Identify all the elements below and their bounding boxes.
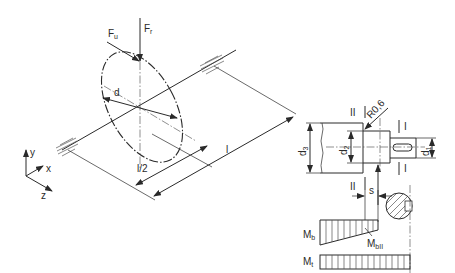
section-ii-bottom-label: II — [350, 181, 356, 192]
coordinate-axes: y x z — [26, 147, 52, 201]
section-ii-top-label: II — [350, 107, 356, 118]
axis-y-label: y — [30, 147, 35, 158]
axis-x-label: x — [46, 163, 51, 174]
torsion-moment-diagram: Mt — [303, 255, 410, 269]
break-line — [321, 123, 323, 173]
shaft-section-d3 — [320, 123, 363, 173]
radius-label: R0,6 — [364, 97, 387, 120]
cross-section-icon — [380, 190, 418, 225]
extension-line-left — [68, 150, 155, 200]
extension-line-right — [214, 66, 296, 114]
diagram-canvas: d Fr Fu l l/2 y x z — [0, 0, 455, 273]
right-bearing-icon — [200, 55, 224, 74]
s-label: s — [369, 185, 374, 196]
length-l-dimension — [154, 117, 293, 196]
mb-label: Mb — [303, 229, 315, 241]
diameter-label: d — [114, 87, 120, 98]
d3-label: d3 — [297, 146, 309, 156]
half-length-label: l/2 — [137, 163, 148, 174]
torsion-moment-outline — [320, 255, 410, 269]
mbii-label: MbII — [367, 238, 383, 250]
bending-moment-diagram: Mb MbII — [303, 220, 383, 250]
mt-label: Mt — [303, 256, 313, 268]
force-fr-label: Fr — [144, 23, 153, 35]
force-fu-label: Fu — [108, 28, 118, 40]
length-label: l — [226, 144, 228, 155]
force-fu-arrow — [107, 42, 139, 61]
axis-z-label: z — [41, 190, 46, 201]
diameter-d-dimension — [103, 98, 177, 118]
keyway-slot — [393, 144, 412, 151]
section-i-bottom-label: I — [404, 163, 407, 174]
d1-label: d1 — [420, 146, 432, 156]
shaft-assembly: d Fr Fu l l/2 — [56, 18, 296, 200]
gear-disk-outline — [85, 39, 200, 176]
shaft-axis — [62, 50, 236, 150]
axis-z-arrow — [26, 176, 52, 191]
axis-x-arrow — [26, 166, 43, 176]
section-i-top-label: I — [404, 121, 407, 132]
